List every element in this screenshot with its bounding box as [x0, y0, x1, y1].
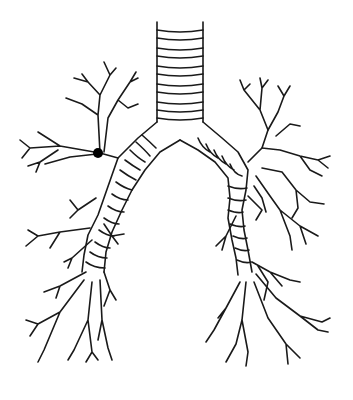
right-main-bronchus	[82, 122, 180, 272]
lower-left-branches	[26, 272, 116, 362]
left-main-bronchus	[180, 122, 252, 275]
upper-right-branches	[240, 78, 330, 250]
middle-right-branches	[216, 196, 262, 250]
marker-dot	[93, 148, 103, 158]
trachea	[157, 22, 203, 122]
bronchial-tree-diagram	[0, 0, 353, 400]
lower-right-branches	[206, 262, 330, 366]
bronchial-tree-illustration	[0, 0, 353, 400]
middle-left-branches	[26, 198, 124, 268]
